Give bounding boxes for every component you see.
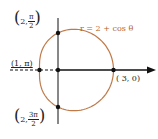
equation-label: r = 2 + cos θ xyxy=(80,24,133,33)
label-3-0: ( 3, 0) xyxy=(116,74,140,83)
point-2-pi-over-2 xyxy=(56,31,60,35)
label-2-pi-over-2: (2,π2) xyxy=(14,10,41,30)
point-origin xyxy=(56,68,60,72)
point-1-pi xyxy=(37,68,41,72)
label-1-pi: (1, π) xyxy=(11,59,33,68)
point-3-0 xyxy=(111,68,115,72)
label-2-3pi-over-2: (2,3π2) xyxy=(14,108,45,128)
point-2-3pi-over-2 xyxy=(56,105,60,109)
axis-arrow-icon xyxy=(147,67,156,74)
